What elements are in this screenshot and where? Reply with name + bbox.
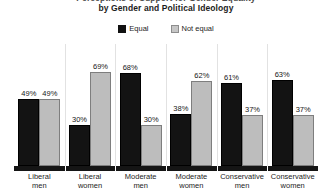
- category-label-line: Liberal: [14, 172, 65, 181]
- legend-label-not-equal: Not equal: [182, 25, 214, 33]
- legend-label-equal: Equal: [129, 25, 148, 33]
- legend-swatch-not-equal-icon: [171, 25, 179, 33]
- bar[interactable]: [120, 73, 141, 166]
- bar[interactable]: [293, 115, 314, 166]
- legend-item-equal: Equal: [118, 25, 148, 33]
- bar-value-label: 30%: [144, 116, 159, 124]
- legend-swatch-equal-icon: [118, 25, 126, 33]
- bar-group: 68%30%: [115, 44, 166, 166]
- axis-tick: [115, 166, 116, 171]
- bar-value-label: 62%: [194, 72, 209, 80]
- bar-wrapper: 30%: [69, 44, 90, 166]
- axis-tick: [65, 166, 66, 171]
- category-label-line: Conservative: [217, 172, 268, 181]
- bar[interactable]: [170, 114, 191, 166]
- legend-item-not-equal: Not equal: [171, 25, 214, 33]
- bar-value-label: 68%: [123, 64, 138, 72]
- category-label-line: Liberal: [65, 172, 116, 181]
- chart-legend: Equal Not equal: [0, 25, 332, 33]
- bar-group: 30%69%: [65, 44, 116, 166]
- bar[interactable]: [141, 125, 162, 166]
- category-label: Moderatewomen: [166, 172, 217, 190]
- chart-screenshot: Perceptions of Support for Gender Equali…: [0, 0, 332, 194]
- bar-value-label: 30%: [72, 116, 87, 124]
- category-label-line: women: [65, 181, 116, 190]
- category-label-line: men: [115, 181, 166, 190]
- category-label-line: men: [217, 181, 268, 190]
- bar-wrapper: 61%: [221, 44, 242, 166]
- bar-groups: 49%49%30%69%68%30%38%62%61%37%63%37%: [14, 44, 318, 166]
- bar-wrapper: 62%: [191, 44, 212, 166]
- bar-value-label: 49%: [21, 90, 36, 98]
- bar-value-label: 69%: [93, 63, 108, 71]
- bar-value-label: 63%: [275, 71, 290, 79]
- category-label: Liberalwomen: [65, 172, 116, 190]
- chart-title-line-2: by Gender and Political Ideology: [0, 3, 332, 13]
- bar-wrapper: 63%: [272, 44, 293, 166]
- bar-value-label: 38%: [173, 105, 188, 113]
- category-label-line: Moderate: [115, 172, 166, 181]
- bar-group: 61%37%: [217, 44, 268, 166]
- bar-wrapper: 69%: [90, 44, 111, 166]
- bar[interactable]: [39, 99, 60, 166]
- category-label: Moderatemen: [115, 172, 166, 190]
- bar-wrapper: 49%: [18, 44, 39, 166]
- bar[interactable]: [69, 125, 90, 166]
- category-label: Conservativewomen: [267, 172, 318, 190]
- bar[interactable]: [18, 99, 39, 166]
- bar-wrapper: 30%: [141, 44, 162, 166]
- bar-wrapper: 49%: [39, 44, 60, 166]
- axis-tick: [217, 166, 218, 171]
- x-axis-category-labels: LiberalmenLiberalwomenModeratemenModerat…: [14, 172, 318, 190]
- bar-value-label: 37%: [245, 106, 260, 114]
- category-label-line: women: [267, 181, 318, 190]
- bar-wrapper: 37%: [242, 44, 263, 166]
- bar-wrapper: 68%: [120, 44, 141, 166]
- axis-tick: [267, 166, 268, 171]
- category-label-line: men: [14, 181, 65, 190]
- bar[interactable]: [191, 81, 212, 166]
- category-label: Conservativemen: [217, 172, 268, 190]
- chart-title: Perceptions of Support for Gender Equali…: [0, 0, 332, 13]
- category-label-line: women: [166, 181, 217, 190]
- bar-wrapper: 38%: [170, 44, 191, 166]
- bar-group: 63%37%: [267, 44, 318, 166]
- plot-area: 49%49%30%69%68%30%38%62%61%37%63%37%: [14, 44, 318, 166]
- x-axis: [14, 166, 318, 171]
- category-label-line: Conservative: [267, 172, 318, 181]
- category-label: Liberalmen: [14, 172, 65, 190]
- bar[interactable]: [221, 83, 242, 166]
- bar-value-label: 49%: [42, 90, 57, 98]
- bar[interactable]: [272, 80, 293, 166]
- bar[interactable]: [242, 115, 263, 166]
- bar-group: 49%49%: [14, 44, 65, 166]
- bar[interactable]: [90, 72, 111, 166]
- bar-value-label: 37%: [296, 106, 311, 114]
- category-label-line: Moderate: [166, 172, 217, 181]
- bar-group: 38%62%: [166, 44, 217, 166]
- axis-tick: [166, 166, 167, 171]
- bar-wrapper: 37%: [293, 44, 314, 166]
- bar-value-label: 61%: [224, 74, 239, 82]
